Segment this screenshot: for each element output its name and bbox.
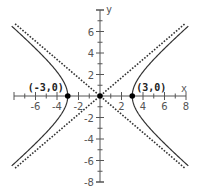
y-tick-label: -4	[84, 134, 94, 145]
vertex-dot	[97, 93, 103, 99]
x-tick-label: 6	[161, 101, 167, 112]
y-tick-label: 2	[88, 70, 94, 81]
vertex-dot	[129, 93, 135, 99]
y-tick-label: -2	[84, 113, 94, 124]
x-tick-label: 8	[183, 101, 189, 112]
x-tick-label: -6	[31, 101, 41, 112]
y-tick-label: 6	[88, 27, 94, 38]
x-tick-label: 4	[140, 101, 146, 112]
y-tick-label: -8	[84, 177, 94, 188]
x-tick-label: 2	[118, 101, 124, 112]
vertex-label: (3,0)	[136, 82, 166, 93]
hyperbola-chart: -6-4-22468-8-6-4-2246xy (-3,0)(3,0)	[0, 0, 204, 189]
vertex-label: (-3,0)	[28, 82, 64, 93]
x-axis-label: x	[181, 83, 187, 94]
x-tick-label: -4	[52, 101, 62, 112]
y-axis-label: y	[106, 4, 112, 15]
y-tick-label: -6	[84, 156, 94, 167]
x-tick-label: -2	[74, 101, 84, 112]
vertex-dot	[65, 93, 71, 99]
y-tick-label: 4	[88, 48, 94, 59]
